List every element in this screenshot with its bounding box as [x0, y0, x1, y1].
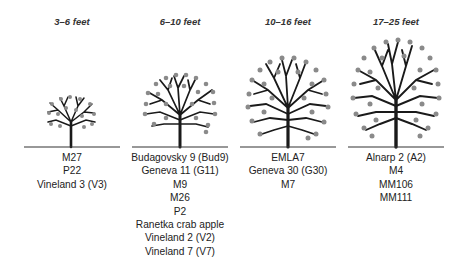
- rootstock-item: Ranetka crab apple: [116, 218, 244, 231]
- column-3-6-feet: 3–6 feet M27 P22 Vineland 3 (V3): [18, 0, 126, 279]
- rootstock-item: M4: [332, 164, 458, 177]
- column-6-10-feet: 6–10 feet Budagovsky 9 (Bud9) Geneva 11 …: [126, 0, 234, 279]
- rootstock-item: Vineland 7 (V7): [116, 245, 244, 258]
- rootstock-item: Alnarp 2 (A2): [332, 151, 458, 164]
- column-10-16-feet: 10–16 feet EMLA7 Geneva 30 (G30) M7: [234, 0, 342, 279]
- semi-standard-tree-icon: [234, 0, 342, 150]
- rootstock-item: M26: [116, 191, 244, 204]
- rootstock-item: P2: [116, 205, 244, 218]
- rootstock-item: MM111: [332, 191, 458, 204]
- semi-dwarf-tree-icon: [126, 0, 234, 150]
- rootstock-list: Alnarp 2 (A2) M4 MM106 MM111: [332, 151, 458, 205]
- rootstock-item: MM106: [332, 178, 458, 191]
- standard-tree-icon: [342, 0, 450, 150]
- rootstock-item: Vineland 2 (V2): [116, 231, 244, 244]
- column-17-25-feet: 17–25 feet Alnarp 2 (A2) M4 MM106 MM111: [342, 0, 450, 279]
- dwarf-tree-icon: [18, 0, 126, 150]
